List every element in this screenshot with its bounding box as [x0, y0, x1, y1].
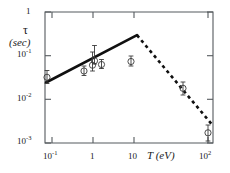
- data-point: [128, 56, 134, 66]
- y-tick-label-1e-3: 10-3: [17, 137, 31, 146]
- y-axis-symbol: τ: [23, 24, 28, 36]
- x-axis-title: T (eV): [147, 150, 175, 161]
- y-axis-ticks: [45, 12, 213, 143]
- x-tick-label-10: 10: [128, 152, 137, 161]
- x-tick-label-1: 1: [90, 152, 95, 161]
- data-points: [44, 46, 211, 142]
- data-point: [81, 66, 87, 76]
- model-falling-line: [137, 35, 212, 124]
- data-point: [205, 125, 211, 141]
- x-axis-unit: (eV): [156, 149, 175, 161]
- figure-container: 1 10-1 10-2 10-3 τ (sec) 10-1 1 10 102 T…: [0, 0, 230, 173]
- axis-frame: [45, 12, 213, 143]
- y-tick-label-1e-1: 10-1: [17, 50, 31, 59]
- y-tick-label-1: 1: [26, 7, 31, 16]
- y-axis-unit: (sec): [9, 37, 30, 48]
- model-rising-line: [46, 35, 137, 82]
- y-tick-label-1e-2: 10-2: [17, 94, 31, 103]
- x-tick-label-1e-1: 10-1: [43, 152, 57, 161]
- x-axis-symbol: T: [147, 149, 153, 161]
- data-point: [98, 60, 104, 69]
- log-log-scatter-plot: [0, 0, 230, 173]
- x-tick-label-1e2: 102: [199, 152, 211, 161]
- x-axis-ticks: [52, 12, 208, 143]
